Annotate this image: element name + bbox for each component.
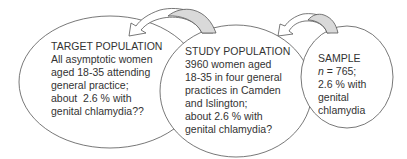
target-title: TARGET POPULATION bbox=[51, 40, 162, 53]
study-population-label: STUDY POPULATION 3960 women aged 18-35 i… bbox=[185, 45, 290, 136]
sample-line: 2.6 % with bbox=[318, 78, 366, 91]
sample-size: n = 765; bbox=[318, 65, 366, 78]
target-line: All asymptotic women bbox=[51, 53, 162, 66]
study-line: 3960 women aged bbox=[185, 58, 290, 71]
target-population-label: TARGET POPULATION All asymptotic women a… bbox=[51, 40, 162, 118]
target-line: general practice; bbox=[51, 79, 162, 92]
sample-line: chlamydia bbox=[318, 104, 366, 117]
study-line: and Islington; bbox=[185, 97, 290, 110]
curved-arrow-icon bbox=[278, 14, 338, 36]
study-line: 18-35 in four general bbox=[185, 71, 290, 84]
sample-title: SAMPLE bbox=[318, 52, 366, 65]
sample-line: genital bbox=[318, 91, 366, 104]
curved-arrow-icon bbox=[129, 8, 216, 36]
target-line: about 2.6 % with bbox=[51, 92, 162, 105]
study-line: practices in Camden bbox=[185, 84, 290, 97]
sample-n-value: = 765; bbox=[324, 65, 356, 77]
target-line: genital chlamydia?? bbox=[51, 105, 162, 118]
study-line: about 2.6 % with bbox=[185, 110, 290, 123]
study-line: genital chlamydia? bbox=[185, 123, 290, 136]
sample-label: SAMPLE n = 765; 2.6 % with genital chlam… bbox=[318, 52, 366, 117]
study-title: STUDY POPULATION bbox=[185, 45, 290, 58]
target-line: aged 18-35 attending bbox=[51, 66, 162, 79]
